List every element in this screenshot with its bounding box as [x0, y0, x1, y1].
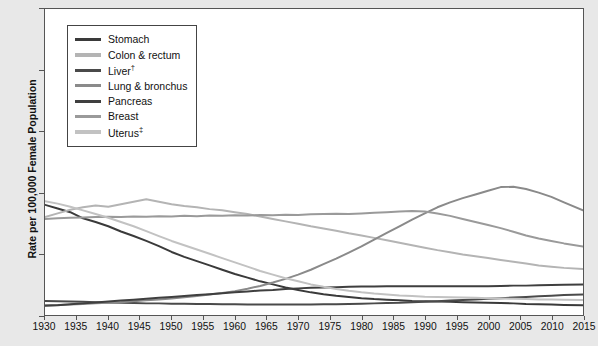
- x-tick-label: 1945: [128, 321, 151, 332]
- x-tick-label: 1960: [223, 321, 246, 332]
- x-tick-mark: [489, 316, 490, 320]
- legend-label: Pancreas: [108, 96, 152, 107]
- series-line-stomach: [45, 205, 583, 305]
- legend-item-liver[interactable]: Liver†: [75, 63, 187, 78]
- x-tick-label: 1995: [445, 321, 468, 332]
- x-tick-mark: [520, 316, 521, 320]
- x-tick-mark: [330, 316, 331, 320]
- chart-figure: Rate per 100,000 Female Population 02040…: [0, 0, 598, 346]
- legend-item-pancreas[interactable]: Pancreas: [75, 94, 187, 109]
- legend-label: Uterus‡: [108, 126, 143, 138]
- x-tick-mark: [298, 316, 299, 320]
- legend-swatch: [75, 69, 101, 72]
- x-tick-label: 2000: [477, 321, 500, 332]
- legend-footnote-marker: †: [131, 63, 135, 72]
- legend-swatch: [75, 84, 101, 87]
- x-tick-mark: [76, 316, 77, 320]
- x-tick-mark: [44, 316, 45, 320]
- x-tick-label: 1940: [96, 321, 119, 332]
- x-tick-mark: [362, 316, 363, 320]
- x-tick-mark: [457, 316, 458, 320]
- x-tick-mark: [171, 316, 172, 320]
- x-tick-mark: [203, 316, 204, 320]
- x-tick-label: 1935: [64, 321, 87, 332]
- x-tick-label: 1965: [255, 321, 278, 332]
- legend-label: Stomach: [108, 34, 149, 45]
- x-tick-label: 1990: [414, 321, 437, 332]
- legend-label: Liver†: [108, 64, 135, 76]
- x-tick-mark: [235, 316, 236, 320]
- x-tick-label: 1970: [287, 321, 310, 332]
- x-tick-label: 1985: [382, 321, 405, 332]
- legend-swatch: [75, 38, 101, 41]
- legend-label: Breast: [108, 111, 138, 122]
- legend-swatch: [75, 115, 101, 118]
- x-tick-mark: [393, 316, 394, 320]
- x-tick-mark: [139, 316, 140, 320]
- x-tick-label: 2005: [509, 321, 532, 332]
- x-tick-mark: [108, 316, 109, 320]
- x-tick-mark: [425, 316, 426, 320]
- legend-label: Lung & bronchus: [108, 81, 187, 92]
- x-tick-label: 1980: [350, 321, 373, 332]
- legend-item-breast[interactable]: Breast: [75, 109, 187, 124]
- x-tick-label: 1975: [318, 321, 341, 332]
- x-tick-label: 1930: [33, 321, 56, 332]
- legend-swatch: [75, 130, 101, 133]
- x-tick-mark: [552, 316, 553, 320]
- x-tick-label: 2010: [541, 321, 564, 332]
- legend-item-colon-rectum[interactable]: Colon & rectum: [75, 47, 187, 62]
- legend-item-uterus[interactable]: Uterus‡: [75, 124, 187, 139]
- x-tick-mark: [584, 316, 585, 320]
- legend-footnote-marker: ‡: [139, 125, 143, 134]
- x-tick-label: 1950: [160, 321, 183, 332]
- x-tick-mark: [266, 316, 267, 320]
- legend-item-stomach[interactable]: Stomach: [75, 32, 187, 47]
- legend-label: Colon & rectum: [108, 50, 180, 61]
- series-line-breast: [45, 211, 583, 246]
- legend-swatch: [75, 100, 101, 103]
- x-tick-label: 1955: [191, 321, 214, 332]
- y-axis-title: Rate per 100,000 Female Population: [26, 49, 38, 289]
- legend-swatch: [75, 53, 101, 56]
- chart-legend: StomachColon & rectumLiver†Lung & bronch…: [67, 25, 197, 147]
- legend-item-lung-bronchus[interactable]: Lung & bronchus: [75, 78, 187, 93]
- x-tick-label: 2015: [573, 321, 596, 332]
